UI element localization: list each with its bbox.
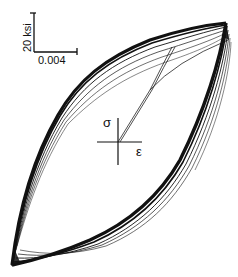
hysteresis-figure	[0, 0, 238, 277]
epsilon-axis-label: ε	[136, 144, 142, 159]
sigma-axis-label: σ	[103, 115, 111, 130]
scale-bar	[30, 13, 77, 55]
scale-strain-label: 0.004	[38, 54, 66, 66]
scale-stress-label: 20 ksi	[21, 23, 33, 52]
